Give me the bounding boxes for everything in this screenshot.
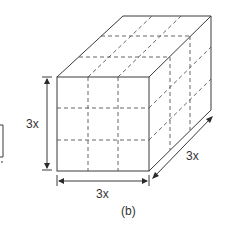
- cube-diagram: 3x 3x 3x (b): [0, 0, 226, 229]
- partial-figure-a: [0, 125, 3, 162]
- height-dimension: [42, 77, 52, 170]
- arrow-up-icon: [44, 78, 50, 84]
- arrow-down-icon: [44, 163, 50, 169]
- depth-dimension: [152, 116, 213, 179]
- depth-label: 3x: [186, 149, 199, 163]
- top-face-grid: [79, 16, 190, 77]
- cube-outline: [57, 16, 211, 171]
- right-face-grid: [149, 36, 211, 150]
- height-label: 3x: [26, 117, 39, 131]
- arrow-left-icon: [58, 178, 64, 184]
- front-face-grid: [57, 77, 149, 171]
- width-dimension: [57, 175, 149, 186]
- arrow-right-icon: [142, 178, 148, 184]
- figure-caption: (b): [121, 204, 136, 218]
- width-label: 3x: [96, 187, 109, 201]
